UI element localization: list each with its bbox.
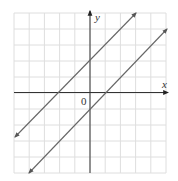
- origin-label: 0: [81, 95, 87, 107]
- coordinate-plane: x y 0: [0, 0, 178, 181]
- y-axis-label: y: [94, 11, 100, 23]
- line-upper: [15, 13, 136, 137]
- x-axis-label: x: [161, 78, 167, 90]
